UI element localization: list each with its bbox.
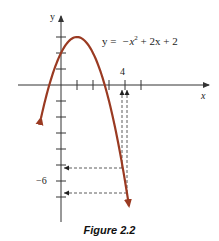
axis-ticks xyxy=(56,37,141,197)
equation-rhs-post: + 2x + 2 xyxy=(141,35,178,47)
equation-rhs: −x xyxy=(122,35,134,47)
x-axis-label: x xyxy=(201,90,205,101)
y-tick-label-neg6: −6 xyxy=(36,175,47,186)
equation-label: y = −x2 + 2x + 2 xyxy=(102,34,178,47)
equation-equals: = xyxy=(110,35,116,47)
equation-lhs: y xyxy=(102,35,108,47)
figure-caption: Figure 2.2 xyxy=(0,224,219,236)
x-tick-label-4: 4 xyxy=(120,66,125,77)
parabola-curve xyxy=(41,37,129,206)
y-axis-label: y xyxy=(50,11,55,22)
equation-exponent: 2 xyxy=(134,34,138,42)
